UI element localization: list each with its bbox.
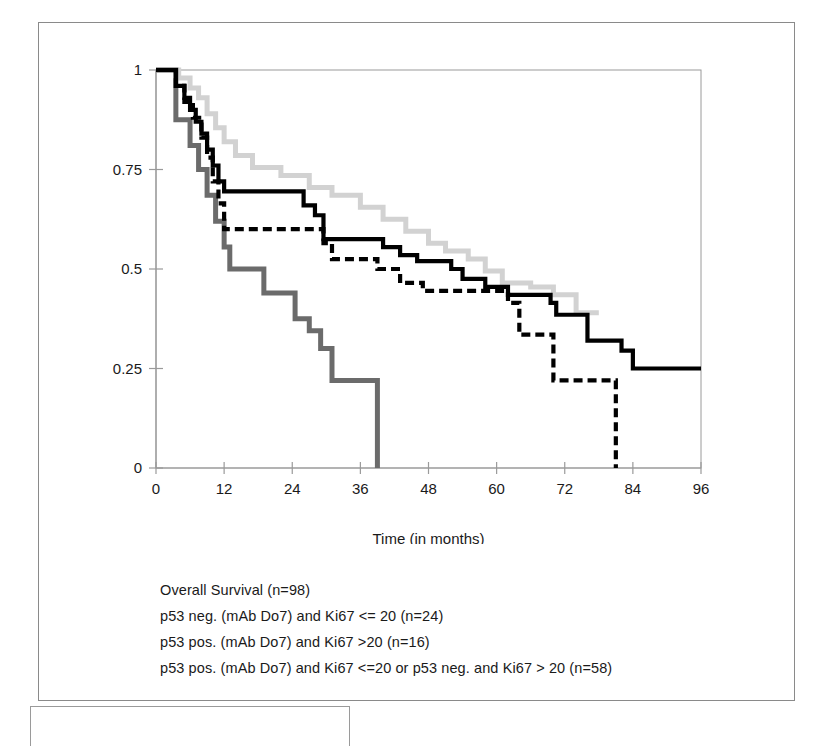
series-layer	[156, 70, 701, 468]
kaplan-meier-svg: 00.250.50.751 01224364860728496 Time (in…	[40, 24, 740, 544]
series-line-2	[156, 70, 377, 468]
x-axis-tick-label: 48	[420, 480, 437, 497]
kaplan-meier-chart: 00.250.50.751 01224364860728496 Time (in…	[40, 24, 740, 544]
x-axis-tick-label: 60	[488, 480, 505, 497]
legend-item-label: p53 pos. (mAb Do7) and Ki67 >20 (n=16)	[160, 634, 430, 650]
y-axis-tick-label: 0	[134, 459, 142, 476]
legend-item-overall-survival: Overall Survival (n=98)	[128, 578, 748, 602]
y-axis: 00.250.50.751	[113, 61, 163, 476]
legend-item-mixed-group: p53 pos. (mAb Do7) and Ki67 <=20 or p53 …	[128, 656, 748, 680]
x-axis-tick-label: 96	[693, 480, 710, 497]
legend-item-label: p53 pos. (mAb Do7) and Ki67 <=20 or p53 …	[160, 660, 612, 676]
light-gray-line-swatch-icon	[128, 661, 150, 675]
x-axis-tick-label: 84	[625, 480, 642, 497]
gray-line-swatch-icon	[128, 635, 150, 649]
chart-legend: Overall Survival (n=98) p53 neg. (mAb Do…	[128, 578, 748, 682]
x-axis: 01224364860728496	[152, 462, 710, 497]
y-axis-tick-label: 0.5	[121, 260, 142, 277]
x-axis-tick-label: 36	[352, 480, 369, 497]
y-axis-tick-label: 0.75	[113, 161, 142, 178]
secondary-frame-fragment	[30, 706, 350, 746]
x-axis-title-label: Time (in months)	[373, 530, 485, 544]
y-axis-tick-label: 0.25	[113, 360, 142, 377]
dashed-line-swatch-icon	[128, 609, 150, 623]
legend-item-p53-pos-ki67-high: p53 pos. (mAb Do7) and Ki67 >20 (n=16)	[128, 630, 748, 654]
x-axis-tick-label: 0	[152, 480, 160, 497]
y-axis-tick-label: 1	[134, 61, 142, 78]
legend-item-p53-neg-ki67-low: p53 neg. (mAb Do7) and Ki67 <= 20 (n=24)	[128, 604, 748, 628]
x-axis-tick-label: 12	[216, 480, 233, 497]
legend-item-label: Overall Survival (n=98)	[160, 582, 310, 598]
x-axis-title: Time (in months)	[373, 530, 485, 544]
x-axis-tick-label: 72	[556, 480, 573, 497]
series-line-0	[156, 70, 701, 369]
legend-item-label: p53 neg. (mAb Do7) and Ki67 <= 20 (n=24)	[160, 608, 443, 624]
solid-line-swatch-icon	[128, 583, 150, 597]
x-axis-tick-label: 24	[284, 480, 301, 497]
